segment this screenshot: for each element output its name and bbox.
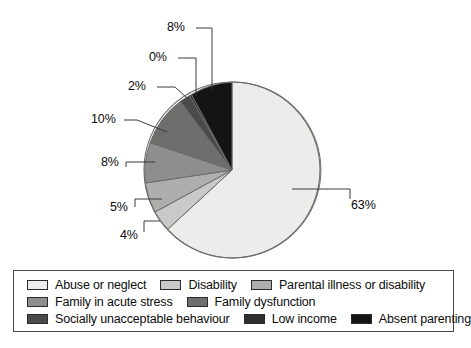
pie-label-family-acute-stress: 8% bbox=[101, 155, 119, 169]
legend-swatch-icon bbox=[27, 314, 48, 324]
legend-label: Family dysfunction bbox=[215, 295, 316, 309]
legend-swatch-icon bbox=[27, 280, 48, 290]
legend-label: Disability bbox=[188, 278, 237, 292]
legend-label: Low income bbox=[272, 312, 337, 326]
legend-item-family-dysfunction: Family dysfunction bbox=[187, 295, 316, 309]
chart-legend: Abuse or neglect Disability Parental ill… bbox=[13, 270, 454, 332]
legend-label: Socially unacceptable behaviour bbox=[55, 312, 230, 326]
pie-label-socially-unacceptable: 2% bbox=[128, 79, 146, 93]
legend-row: Family in acute stress Family dysfunctio… bbox=[27, 293, 443, 310]
legend-label: Absent parenting bbox=[379, 312, 471, 326]
legend-label: Abuse or neglect bbox=[55, 278, 146, 292]
leader-line-8-top bbox=[196, 28, 212, 89]
legend-row: Socially unacceptable behaviour Low inco… bbox=[27, 310, 443, 327]
pie-label-family-dysfunction: 10% bbox=[91, 112, 116, 126]
pie-label-abuse-or-neglect: 63% bbox=[351, 198, 376, 212]
legend-item-absent-parenting: Absent parenting bbox=[351, 312, 471, 326]
legend-label: Parental illness or disability bbox=[279, 278, 425, 292]
pie-chart-svg bbox=[0, 0, 469, 266]
legend-item-parental-illness: Parental illness or disability bbox=[251, 278, 425, 292]
legend-item-abuse-or-neglect: Abuse or neglect bbox=[27, 278, 146, 292]
legend-swatch-icon bbox=[187, 297, 208, 307]
pie-label-absent-parenting: 8% bbox=[167, 20, 185, 34]
pie-label-parental-illness: 5% bbox=[110, 200, 128, 214]
pie-label-low-income: 0% bbox=[149, 50, 167, 64]
legend-item-disability: Disability bbox=[160, 278, 237, 292]
legend-swatch-icon bbox=[351, 314, 372, 324]
legend-swatch-icon bbox=[251, 280, 272, 290]
leader-line-4 bbox=[144, 221, 160, 232]
legend-item-low-income: Low income bbox=[244, 312, 337, 326]
pie-chart-area: 63% 4% 5% 8% 10% 2% 0% 8% bbox=[0, 0, 469, 266]
leader-line-0 bbox=[178, 58, 196, 96]
legend-item-socially-unacceptable: Socially unacceptable behaviour bbox=[27, 312, 230, 326]
legend-swatch-icon bbox=[160, 280, 181, 290]
legend-label: Family in acute stress bbox=[55, 295, 173, 309]
legend-row: Abuse or neglect Disability Parental ill… bbox=[27, 276, 443, 293]
legend-swatch-icon bbox=[244, 314, 265, 324]
pie-label-disability: 4% bbox=[120, 228, 138, 242]
legend-swatch-icon bbox=[27, 297, 48, 307]
legend-item-family-acute-stress: Family in acute stress bbox=[27, 295, 173, 309]
